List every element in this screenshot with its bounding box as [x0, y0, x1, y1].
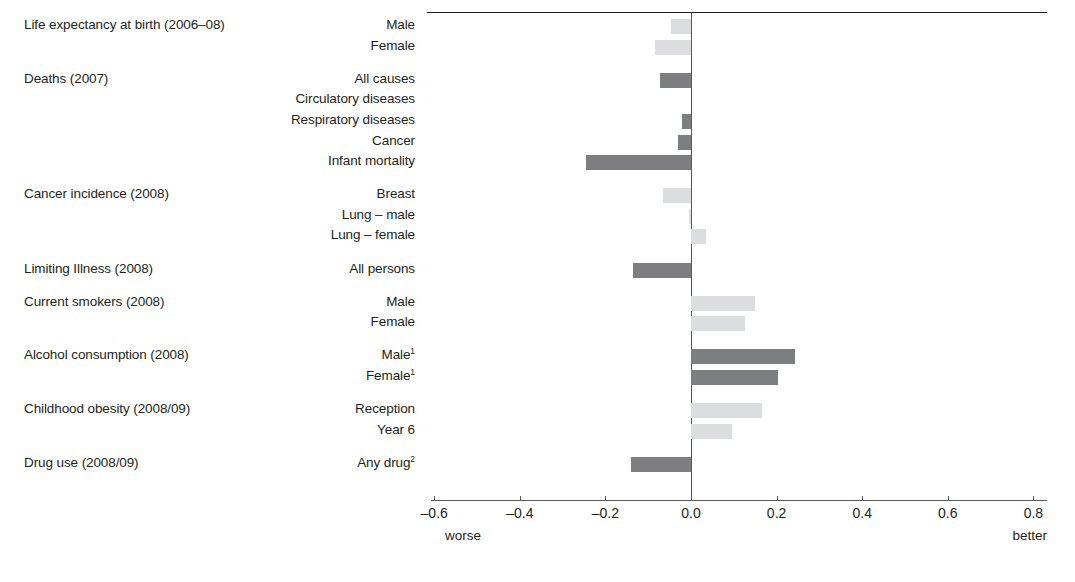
x-axis-line [431, 500, 1047, 501]
item-label: Lung – male [342, 207, 415, 222]
item-label: All causes [354, 71, 415, 86]
item-label: Male1 [381, 347, 415, 362]
x-tick-label: 0.0 [681, 505, 700, 521]
group-label: Childhood obesity (2008/09) [24, 401, 190, 416]
item-label: Cancer [372, 133, 415, 148]
bar [691, 316, 745, 331]
bar [691, 403, 762, 418]
item-label: Female [371, 38, 415, 53]
bar [663, 188, 691, 203]
x-tick [605, 496, 606, 501]
item-label: Female1 [366, 368, 415, 383]
bar [691, 370, 778, 385]
x-tick [948, 496, 949, 501]
bar [671, 19, 691, 34]
x-tick-label: 0.6 [938, 505, 957, 521]
bar [655, 40, 691, 55]
group-label: Limiting Illness (2008) [24, 261, 153, 276]
group-label: Life expectancy at birth (2006–08) [24, 17, 225, 32]
bar [691, 424, 732, 439]
item-label: Breast [377, 186, 415, 201]
chart-top-border [427, 12, 1047, 13]
x-tick-label: –0.2 [592, 505, 619, 521]
group-label: Drug use (2008/09) [24, 455, 139, 470]
bar [678, 135, 691, 150]
bar [633, 263, 691, 278]
item-label: Male [386, 17, 415, 32]
group-label: Alcohol consumption (2008) [24, 347, 189, 362]
x-tick [1033, 496, 1034, 501]
bar [631, 457, 691, 472]
x-tick [777, 496, 778, 501]
bar [691, 229, 706, 244]
item-label: Any drug2 [357, 455, 415, 470]
item-label: Year 6 [377, 422, 415, 437]
x-tick-label: 0.2 [767, 505, 786, 521]
bar [660, 73, 691, 88]
axis-better-label: better [1012, 528, 1047, 543]
item-label: Respiratory diseases [291, 112, 415, 127]
x-tick [434, 496, 435, 501]
item-label: Lung – female [331, 227, 415, 242]
group-label: Cancer incidence (2008) [24, 186, 169, 201]
bar [691, 296, 755, 311]
x-tick [691, 496, 692, 501]
bar [682, 114, 691, 129]
item-label: Circulatory diseases [295, 91, 415, 106]
x-tick-label: 0.4 [852, 505, 871, 521]
comparison-bar-chart: –0.6–0.4–0.20.00.20.40.60.8 Life expecta… [0, 0, 1075, 582]
group-label: Current smokers (2008) [24, 294, 164, 309]
x-tick [520, 496, 521, 501]
x-tick-label: –0.4 [506, 505, 533, 521]
item-label: Infant mortality [328, 153, 415, 168]
x-tick-label: –0.6 [421, 505, 448, 521]
bar [689, 209, 691, 224]
item-label: Male [386, 294, 415, 309]
group-label: Deaths (2007) [24, 71, 108, 86]
axis-worse-label: worse [445, 528, 481, 543]
bar [691, 349, 795, 364]
item-label: Reception [355, 401, 415, 416]
bar [586, 155, 691, 170]
x-tick [862, 496, 863, 501]
item-label: All persons [349, 261, 415, 276]
item-label: Female [371, 314, 415, 329]
x-tick-label: 0.8 [1024, 505, 1043, 521]
